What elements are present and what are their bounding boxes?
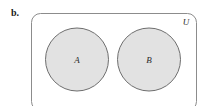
set-label-a: A bbox=[73, 55, 80, 65]
universe-label: U bbox=[183, 17, 190, 27]
set-label-b: B bbox=[146, 55, 152, 65]
venn-diagram-canvas: U A B bbox=[0, 0, 204, 106]
venn-diagram-figure: b. U A B bbox=[0, 0, 204, 106]
